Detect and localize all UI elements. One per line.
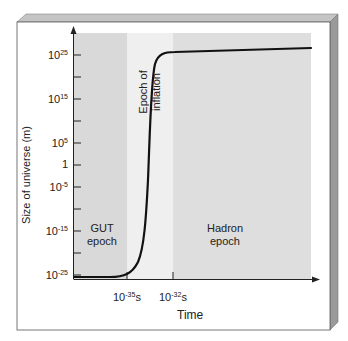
ytick-label-1e25: 1025 [34,49,68,61]
frame-right-bevel [330,14,338,330]
gut-label-line2: epoch [82,235,122,248]
ytick-label-1e-5: 10-5 [34,181,68,193]
xtick-label-1e-32s: 10-32s [159,291,187,303]
y-axis-title: Size of universe (m) [20,126,32,224]
ytick-label-1e-15: 10-15 [34,225,68,237]
gut-epoch-label: GUT epoch [82,222,122,248]
hadron-label-line2: epoch [200,235,250,248]
xtick-label-1e-35s: 10-35s [113,291,141,303]
inflation-label-line1: Epoch of [137,70,150,113]
inflation-epoch-label: Epoch of inflation [137,70,163,113]
gut-label-line1: GUT [82,222,122,235]
frame-top-bevel [17,14,338,22]
ytick-label-1: 1 [34,159,68,170]
hadron-label-line1: Hadron [200,222,250,235]
inflation-label-line2: inflation [150,70,163,113]
ytick-label-1e5: 105 [34,137,68,149]
ytick-label-1e15: 1015 [34,93,68,105]
x-axis-title: Time [177,309,203,321]
ytick-label-1e-25: 10-25 [34,269,68,281]
hadron-epoch-label: Hadron epoch [200,222,250,248]
